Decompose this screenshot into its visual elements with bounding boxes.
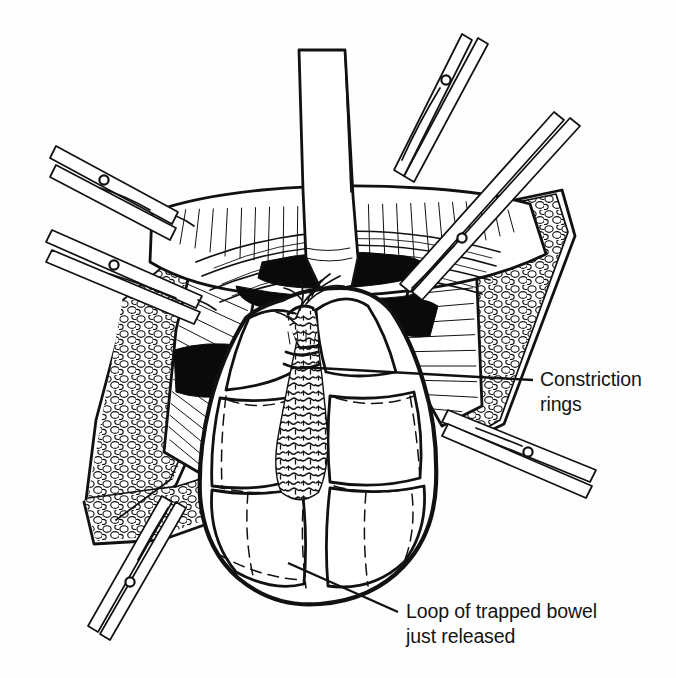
illustration-canvas: Constriction rings Loop of trapped bowel… xyxy=(0,0,676,678)
surgical-illustration-figure: Constriction rings Loop of trapped bowel… xyxy=(0,0,676,678)
label-line-1: Loop of trapped bowel xyxy=(406,600,597,622)
label-line-2: rings xyxy=(540,393,582,415)
label-line-1: Constriction xyxy=(540,368,642,390)
label-line-2: just released xyxy=(405,625,515,647)
